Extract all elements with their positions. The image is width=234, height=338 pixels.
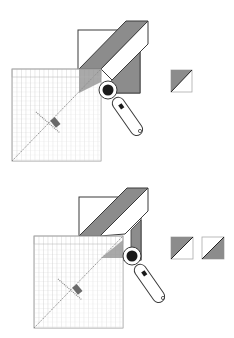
step-1-panel (12, 21, 192, 161)
rotary-cutter (123, 247, 167, 305)
result-hst-1 (171, 70, 192, 92)
cutter-blade-icon (127, 251, 138, 262)
square-ruler (34, 236, 123, 328)
step-2-panel (34, 188, 224, 328)
square-ruler (12, 69, 101, 161)
diagram-root: Cut once diagonally Cut second diagonal (0, 0, 234, 338)
result-hst-1 (171, 237, 193, 259)
quilting-diagram (0, 0, 234, 338)
cutter-blade-icon (103, 85, 114, 96)
result-hst-2 (202, 237, 224, 259)
